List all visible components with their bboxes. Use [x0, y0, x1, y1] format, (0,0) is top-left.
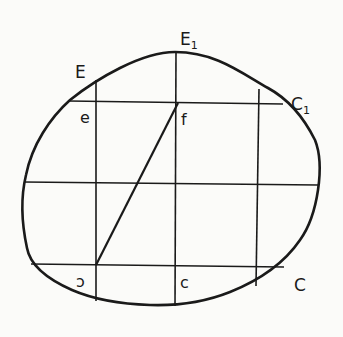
label-E1-sub: 1 — [191, 39, 198, 52]
grid-line-horizontal-2 — [24, 182, 318, 185]
label-C1: C1 — [291, 94, 310, 117]
label-E1-main: E — [180, 29, 191, 49]
label-C: C — [294, 275, 306, 295]
label-e: e — [80, 108, 90, 127]
label-C1-sub: 1 — [303, 104, 310, 117]
grid-line-vertical-3 — [256, 89, 259, 286]
label-E: E — [75, 62, 86, 82]
label-E1: E1 — [180, 29, 198, 52]
grid-line-horizontal-3 — [31, 264, 284, 267]
label-f: f — [181, 110, 187, 129]
label-C1-main: C — [291, 94, 303, 114]
label-s: ↄ — [76, 272, 85, 291]
label-c: c — [180, 273, 189, 292]
diagram-canvas: E E1 C1 C e f ↄ c — [0, 0, 343, 337]
grid-line-vertical-2 — [175, 52, 176, 306]
